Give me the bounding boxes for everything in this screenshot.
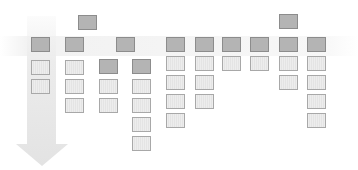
header-block [279,14,298,29]
item-block [65,98,84,113]
header-block [116,37,135,52]
header-block [307,37,326,52]
item-block [307,75,326,90]
header-block [31,37,50,52]
header-block [65,37,84,52]
item-block [65,60,84,75]
item-block [307,113,326,128]
item-block [65,79,84,94]
header-block [99,59,118,74]
item-block [195,94,214,109]
header-block [166,37,185,52]
item-block [31,60,50,75]
item-block [132,136,151,151]
item-block [307,56,326,71]
item-block [132,98,151,113]
item-block [99,98,118,113]
item-block [166,75,185,90]
header-block [132,59,151,74]
header-block [195,37,214,52]
item-block [222,56,241,71]
item-block [99,79,118,94]
header-block [250,37,269,52]
item-block [132,117,151,132]
item-block [31,79,50,94]
header-block [222,37,241,52]
item-block [250,56,269,71]
item-block [166,94,185,109]
header-block [279,37,298,52]
item-block [166,113,185,128]
item-block [195,56,214,71]
item-block [166,56,185,71]
item-block [307,94,326,109]
header-block [78,15,97,30]
item-block [195,75,214,90]
item-block [132,79,151,94]
item-block [279,56,298,71]
item-block [279,75,298,90]
